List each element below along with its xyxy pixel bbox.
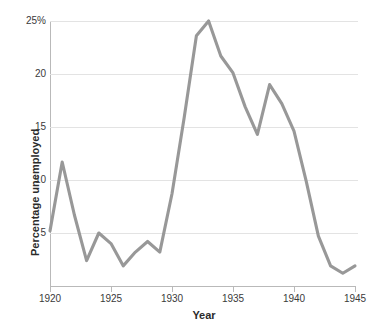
gridline (50, 21, 358, 22)
x-tick-label: 1930 (152, 293, 192, 304)
x-tick-label: 1920 (30, 293, 70, 304)
y-tick-label: 25% (2, 15, 46, 26)
y-tick-label: 20 (2, 68, 46, 79)
x-tick (172, 287, 173, 292)
x-tick (111, 287, 112, 292)
x-tick (294, 287, 295, 292)
caption-fragment (2, 329, 62, 334)
y-tick-label: 15 (2, 121, 46, 132)
y-tick-label: 10 (2, 174, 46, 185)
y-axis-tick-labels: 510152025% (0, 0, 46, 335)
x-tick-label: 1935 (213, 293, 253, 304)
chart-figure: Percentage unemployed 510152025% 1920192… (0, 0, 371, 335)
x-tick (50, 287, 51, 292)
x-tick-label: 1945 (335, 293, 371, 304)
x-axis-title: Year (50, 309, 358, 321)
gridline (50, 180, 358, 181)
x-tick-label: 1940 (274, 293, 314, 304)
x-axis-line (50, 286, 356, 287)
plot-area (50, 21, 358, 286)
x-tick (233, 287, 234, 292)
x-tick (355, 287, 356, 292)
gridline (50, 127, 358, 128)
gridline (50, 74, 358, 75)
y-tick-label: 5 (2, 227, 46, 238)
x-tick-label: 1925 (91, 293, 131, 304)
gridline (50, 233, 358, 234)
